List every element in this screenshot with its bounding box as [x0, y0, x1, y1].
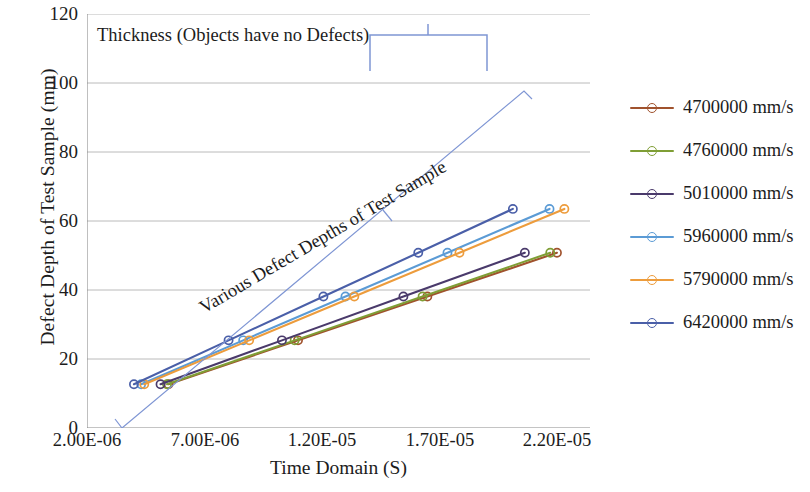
legend-swatch [630, 187, 674, 201]
legend-item[interactable]: 5960000 mm/s [630, 215, 808, 258]
y-tick-label: 40 [18, 280, 78, 299]
y-tick-label: 60 [18, 211, 78, 230]
legend-swatch [630, 273, 674, 287]
legend-marker-icon [647, 232, 657, 242]
series-line [161, 253, 525, 384]
y-tick-label: 80 [18, 142, 78, 161]
legend-item[interactable]: 6420000 mm/s [630, 301, 808, 344]
legend-swatch [630, 316, 674, 330]
legend-label: 5790000 mm/s [683, 269, 794, 290]
legend-label: 4700000 mm/s [683, 97, 794, 118]
legend-label: 6420000 mm/s [683, 312, 794, 333]
legend-label: 5960000 mm/s [683, 226, 794, 247]
legend-item[interactable]: 4760000 mm/s [630, 129, 808, 172]
legend-marker-icon [647, 275, 657, 285]
y-tick-label: 120 [18, 4, 78, 23]
x-tick-label: 1.70E-05 [380, 430, 500, 450]
series-3 [156, 249, 529, 389]
legend-marker-icon [647, 146, 657, 156]
series-line [167, 253, 550, 384]
legend-item[interactable]: 5790000 mm/s [630, 258, 808, 301]
brace-thickness [370, 35, 487, 71]
legend: 4700000 mm/s4760000 mm/s5010000 mm/s5960… [630, 86, 808, 344]
legend-marker-icon [647, 318, 657, 328]
chart-figure: Defect Depth of Test Sample (mm) Time Do… [0, 0, 810, 492]
y-tick-label: 20 [18, 349, 78, 368]
legend-marker-icon [647, 189, 657, 199]
legend-item[interactable]: 4700000 mm/s [630, 86, 808, 129]
x-axis-title: Time Domain (S) [87, 457, 590, 479]
legend-swatch [630, 230, 674, 244]
annotation-thickness: Thickness (Objects have no Defects) [97, 25, 369, 46]
legend-swatch [630, 101, 674, 115]
y-tick-label: 100 [18, 73, 78, 92]
x-tick-label: 1.20E-05 [262, 430, 382, 450]
x-tick-label: 7.00E-06 [145, 430, 265, 450]
legend-label: 4760000 mm/s [683, 140, 794, 161]
x-tick-label: 2.20E-05 [497, 430, 617, 450]
legend-marker-icon [647, 103, 657, 113]
legend-item[interactable]: 5010000 mm/s [630, 172, 808, 215]
legend-swatch [630, 144, 674, 158]
legend-label: 5010000 mm/s [683, 183, 794, 204]
series-2 [163, 249, 554, 389]
x-tick-label: 2.00E-06 [27, 430, 147, 450]
